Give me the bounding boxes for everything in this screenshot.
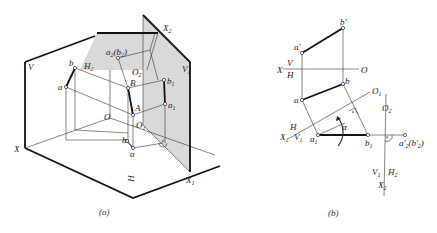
label-a2b2: a2(b2) <box>106 47 127 58</box>
point-b-prime <box>73 66 76 69</box>
label-X: X <box>13 144 20 154</box>
label-X: X <box>276 65 283 75</box>
right-angle-dot <box>162 140 164 142</box>
label-V: V <box>287 58 294 68</box>
right-angle-dot-2 <box>386 136 388 138</box>
label-b: b <box>122 135 127 145</box>
label-B: B <box>130 78 136 88</box>
label-b-prime: b' <box>340 17 348 27</box>
projector <box>75 130 128 133</box>
point-a <box>300 98 303 101</box>
point-a-prime <box>64 85 67 88</box>
diagram-stage: V X O O1 O2 X2 V1 H2 X1 B A b a b1 a1 a2… <box>0 0 437 233</box>
point-b1 <box>162 78 165 81</box>
label-alpha: α <box>342 122 347 132</box>
figure-a-3d-view: V X O O1 O2 X2 V1 H2 X1 B A b a b1 a1 a2… <box>13 15 220 217</box>
label-b1: b1 <box>365 138 373 149</box>
label-O1: O1 <box>372 86 382 97</box>
figure-b-orthographic: X V H O a' b' a b O1 O2 H X1 V1 a1 α b1 … <box>276 17 424 218</box>
label-A: A <box>134 103 141 113</box>
label-a-prime: a' <box>294 42 302 52</box>
projector <box>133 143 163 148</box>
label-X2: X2 <box>162 23 172 34</box>
right-angle-mark <box>349 108 358 114</box>
label-V1: V1 <box>294 132 303 143</box>
point-A <box>131 113 134 116</box>
segment-a-prime-b-prime <box>302 28 343 53</box>
label-V: V <box>28 62 35 72</box>
alpha-reference-line <box>318 123 345 135</box>
label-a: a <box>130 149 135 159</box>
point-a2b2 <box>403 133 406 136</box>
point-a-prime <box>300 51 303 54</box>
caption-b: (b) <box>328 208 339 218</box>
label-O: O <box>361 65 368 75</box>
caption-a: (a) <box>99 207 110 217</box>
label-X1: X1 <box>279 132 289 143</box>
label-a2b2: a'2(b'2) <box>399 138 424 149</box>
label-H: H <box>126 174 136 182</box>
segment-a1-b1 <box>164 80 165 104</box>
label-a-prime: a <box>58 82 63 92</box>
label-O2: O2 <box>382 103 392 114</box>
label-X2: X2 <box>377 180 387 191</box>
label-b: b <box>345 76 350 86</box>
point-b1 <box>366 133 369 136</box>
label-V1-x2: V1 <box>372 167 381 178</box>
label-a: a <box>294 95 299 105</box>
segment-a-prime-b-prime <box>66 68 75 87</box>
x-axis-line <box>25 118 110 148</box>
label-H-x1: H <box>289 122 297 132</box>
point-a1 <box>163 102 166 105</box>
point-a1 <box>316 133 319 136</box>
label-H: H <box>286 70 294 80</box>
right-angle-dot <box>352 111 354 113</box>
label-O: O <box>104 112 111 122</box>
label-H2: H2 <box>387 167 398 178</box>
label-b-prime: b <box>69 58 74 68</box>
segment-ab <box>302 84 343 100</box>
v-plane-top-edge <box>25 36 95 62</box>
projection-diagram: V X O O1 O2 X2 V1 H2 X1 B A b a b1 a1 a2… <box>0 0 437 233</box>
right-angle-mark-2 <box>385 135 392 142</box>
